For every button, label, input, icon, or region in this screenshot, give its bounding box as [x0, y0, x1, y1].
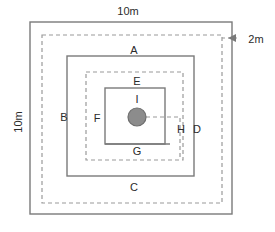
top-dimension-label: 10m	[117, 5, 138, 17]
diagram-container: A B C D E F G H I 10m 10m 2m	[0, 0, 275, 232]
wall-label-c: C	[130, 181, 138, 193]
left-dimension-label: 10m	[12, 111, 24, 132]
wall-label-i: I	[135, 93, 138, 105]
gap-dimension-label: 2m	[248, 33, 263, 45]
wall-label-a: A	[130, 44, 138, 56]
marker-leader-line	[146, 117, 180, 160]
wall-label-h: H	[177, 123, 185, 135]
center-marker	[128, 108, 146, 126]
wall-label-f: F	[94, 112, 101, 124]
wall-label-e: E	[133, 75, 140, 87]
wall-label-d: D	[193, 123, 201, 135]
wall-label-g: G	[133, 145, 142, 157]
floor-plan-svg: A B C D E F G H I 10m 10m 2m	[0, 0, 275, 232]
wall-label-b: B	[60, 111, 67, 123]
